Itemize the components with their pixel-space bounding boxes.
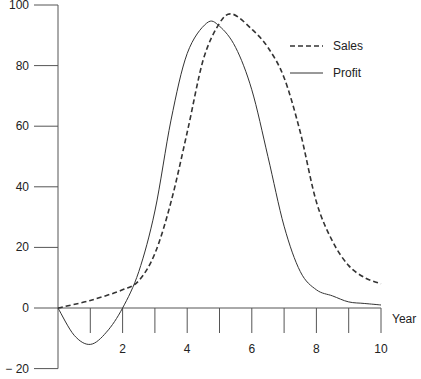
y-tick-label: 100 (9, 0, 29, 12)
x-tick-label: 6 (248, 342, 255, 356)
legend-label-profit: Profit (333, 66, 362, 80)
series-line-sales (58, 14, 381, 308)
x-tick-label: 10 (374, 342, 388, 356)
legend-label-sales: Sales (333, 39, 363, 53)
sales-profit-chart: 100806040200− 20 246810 SalesProfit Year (0, 0, 421, 379)
x-tick-label: 2 (119, 342, 126, 356)
y-tick-label: − 20 (5, 362, 29, 376)
y-tick-label: 40 (16, 180, 30, 194)
x-tick-label: 8 (313, 342, 320, 356)
y-axis: 100806040200− 20 (5, 0, 58, 376)
y-tick-label: 80 (16, 59, 30, 73)
y-tick-label: 20 (16, 240, 30, 254)
x-axis: 246810 (34, 308, 388, 356)
series-lines (58, 14, 381, 345)
chart-svg: 100806040200− 20 246810 SalesProfit Year (0, 0, 421, 379)
y-tick-label: 60 (16, 119, 30, 133)
x-tick-label: 4 (184, 342, 191, 356)
x-axis-label: Year (392, 312, 416, 326)
y-tick-label: 0 (22, 301, 29, 315)
legend: SalesProfit (290, 39, 363, 80)
